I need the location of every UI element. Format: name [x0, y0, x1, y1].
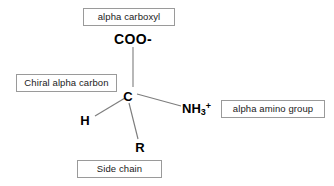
amino-base-text: NH [182, 101, 201, 116]
callout-alpha-carboxyl: alpha carboxyl [83, 8, 175, 26]
amino-superscript-text: + [206, 101, 211, 111]
callout-alpha-amino-group: alpha amino group [221, 100, 325, 118]
atom-label-amino-group: NH3+ [182, 99, 222, 120]
atom-label-side-chain-r: R [133, 140, 147, 155]
amino-acid-diagram: alpha carboxyl Chiral alpha carbon alpha… [0, 0, 334, 186]
atom-label-carboxyl-group: COO- [108, 31, 158, 47]
callout-side-chain: Side chain [77, 160, 162, 178]
atom-label-alpha-carbon: C [121, 89, 135, 104]
bond-c-to-sidechain [129, 103, 138, 139]
bond-c-to-amino [137, 94, 181, 106]
callout-chiral-alpha-carbon: Chiral alpha carbon [16, 74, 117, 92]
bond-lines-layer [0, 0, 334, 186]
atom-label-hydrogen: H [78, 113, 92, 128]
